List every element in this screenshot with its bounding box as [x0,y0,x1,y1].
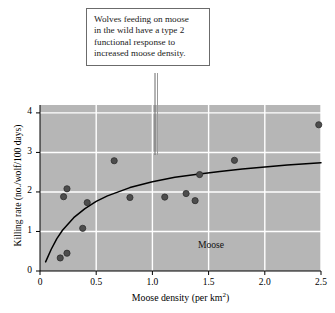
data-point [64,186,70,192]
data-point [84,200,90,206]
y-tick-label: 4 [18,106,32,116]
data-point [231,157,237,163]
callout-line-3: functional response to [94,37,203,48]
figure-container: Wolves feeding on moose in the wild have… [0,0,335,313]
callout-line-2: in the wild have a type 2 [94,25,203,36]
x-tick-label: 1.0 [140,277,164,287]
x-tick-label: 0.5 [84,277,108,287]
callout-box: Wolves feeding on moose in the wild have… [86,8,210,66]
y-tick-label: 3 [18,146,32,156]
data-point [162,194,168,200]
x-tick-label: 0 [28,277,52,287]
callout-line-4: increased moose density. [94,48,203,59]
y-tick-label: 0 [18,265,32,275]
data-point [127,194,133,200]
data-point [192,198,198,204]
x-axis-title: Moose density (per km2) [40,291,321,303]
data-point [111,158,117,164]
data-point [316,122,322,128]
x-tick-label: 1.5 [197,277,221,287]
y-tick-label: 1 [18,225,32,235]
data-point [57,255,63,261]
series-annotation-moose: Moose [198,239,224,250]
data-point [64,250,70,256]
callout-line-1: Wolves feeding on moose [94,14,203,25]
y-tick-label: 2 [18,185,32,195]
x-tick-label: 2.5 [309,277,333,287]
data-point [80,225,86,231]
data-point [61,194,67,200]
data-point [183,190,189,196]
plot-background [40,105,321,271]
data-point [197,171,203,177]
x-tick-label: 2.0 [253,277,277,287]
